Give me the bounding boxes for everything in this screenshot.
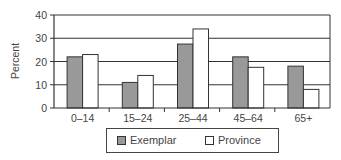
y-tick-label: 20 [35,56,47,68]
legend-label-exemplar: Exemplar [130,134,176,146]
y-tick-label: 10 [35,79,47,91]
bar-exemplar [288,66,304,108]
legend-item-exemplar: Exemplar [117,134,176,146]
y-axis-label: Percent [9,43,21,79]
bar-province [138,75,154,108]
legend: Exemplar Province [106,128,279,153]
x-tick-label: 0–14 [71,112,95,124]
province-swatch-icon [205,136,214,145]
x-tick-label: 45–64 [234,112,263,124]
bars [67,29,319,108]
bar-province [193,29,209,108]
bar-chart: 0102030400–1415–2425–4445–6465+ Percent [0,0,341,125]
y-tick-label: 30 [35,32,47,44]
bar-exemplar [178,44,194,108]
bar-exemplar [122,82,138,108]
x-tick-label: 25–44 [178,112,207,124]
bar-exemplar [233,57,249,108]
bar-province [83,55,99,108]
bar-province [303,89,319,108]
y-tick-label: 40 [35,9,47,21]
bar-province [248,67,264,108]
exemplar-swatch-icon [117,136,126,145]
x-tick-label: 65+ [294,112,312,124]
legend-label-province: Province [218,134,261,146]
legend-item-province: Province [205,134,261,146]
x-tick-label: 15–24 [123,112,152,124]
y-tick-label: 0 [41,102,47,114]
bar-exemplar [67,57,83,108]
